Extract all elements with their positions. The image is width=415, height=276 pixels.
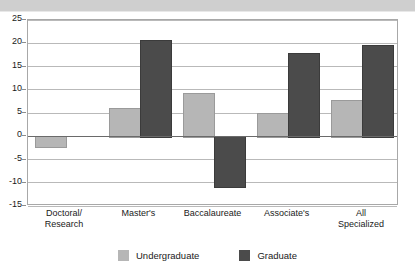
legend-item-graduate: Graduate (239, 250, 297, 261)
x-axis-label-line: Specialized (324, 219, 398, 230)
bar-group (251, 20, 325, 204)
y-axis-tick-label: -5 (0, 154, 22, 163)
bar-group (28, 20, 102, 204)
x-axis-category-label: Master's (101, 208, 175, 219)
bar-undergraduate (257, 113, 289, 138)
y-axis-tick-mark (22, 135, 26, 136)
y-axis-tick-label: 0 (0, 130, 22, 139)
y-axis-tick-label: -15 (0, 200, 22, 209)
y-axis-tick-mark (22, 42, 26, 43)
x-axis-category-labels: Doctoral/ResearchMaster'sBaccalaureateAs… (27, 208, 398, 236)
y-axis-tick-label: 10 (0, 84, 22, 93)
top-banner-strip (0, 0, 415, 12)
bar-undergraduate (183, 93, 215, 139)
y-axis-tick-mark (22, 66, 26, 67)
x-axis-category-label: Baccalaureate (175, 208, 249, 219)
bar-graduate (140, 40, 172, 139)
y-axis-tick-mark (22, 112, 26, 113)
legend-label: Graduate (257, 251, 297, 261)
bar-graduate (214, 136, 246, 188)
bar-group (176, 20, 250, 204)
chart-legend: UndergraduateGraduate (0, 250, 415, 261)
zero-line (28, 136, 397, 137)
y-axis-tick-label: 15 (0, 61, 22, 70)
x-axis-category-label: AllSpecialized (324, 208, 398, 230)
y-axis-tick-mark (22, 89, 26, 90)
x-axis-label-line: Baccalaureate (175, 208, 249, 219)
x-axis-category-label: Associate's (250, 208, 324, 219)
bar-undergraduate (109, 108, 141, 138)
bar-undergraduate (35, 136, 67, 147)
bar-graduate (288, 53, 320, 138)
y-axis-tick-label: -10 (0, 177, 22, 186)
bar-group (325, 20, 399, 204)
chart-plot-area (27, 19, 398, 205)
x-axis-label-line: Master's (101, 208, 175, 219)
y-axis-tick-label: 20 (0, 37, 22, 46)
x-axis-label-line: All (324, 208, 398, 219)
y-axis-tick-mark (22, 205, 26, 206)
x-axis-label-line: Associate's (250, 208, 324, 219)
bar-group (102, 20, 176, 204)
y-axis-tick-label: 25 (0, 14, 22, 23)
legend-swatch-icon (118, 250, 129, 261)
x-axis-category-label: Doctoral/Research (27, 208, 101, 230)
y-axis-tick-mark (22, 182, 26, 183)
gridline (28, 206, 397, 207)
legend-swatch-icon (239, 250, 250, 261)
x-axis-label-line: Research (27, 219, 101, 230)
y-axis-tick-mark (22, 159, 26, 160)
y-axis-tick-label: 5 (0, 107, 22, 116)
legend-label: Undergraduate (136, 251, 199, 261)
bar-graduate (362, 45, 394, 139)
legend-item-undergraduate: Undergraduate (118, 250, 199, 261)
y-axis-tick-mark (22, 19, 26, 20)
x-axis-label-line: Doctoral/ (27, 208, 101, 219)
bar-undergraduate (331, 100, 363, 138)
